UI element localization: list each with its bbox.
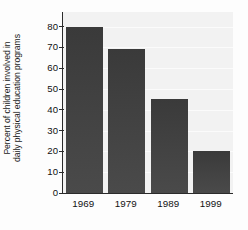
bar-1979: [108, 49, 145, 193]
bar-1999: [193, 151, 230, 193]
bar-1969: [66, 27, 103, 193]
y-axis-tick: 40: [34, 104, 64, 116]
bar-chart-figure: Percent of children involved in daily ph…: [0, 0, 248, 230]
plot-inner: [63, 12, 233, 193]
x-axis-tick-label: 1989: [147, 198, 190, 210]
x-axis-tick-label: 1969: [62, 198, 105, 210]
y-axis-tick-label: 20: [47, 145, 58, 157]
y-axis-tick: 80: [34, 21, 64, 33]
y-axis-tick: 20: [34, 145, 64, 157]
plot-area: [62, 12, 233, 194]
y-axis-tick-label: 80: [47, 21, 58, 33]
x-axis-tick-label: 1999: [190, 198, 233, 210]
y-axis-tick: 70: [34, 41, 64, 53]
y-axis-label: Percent of children involved in daily ph…: [2, 0, 36, 196]
y-axis-tick: 0: [34, 187, 64, 199]
y-axis-tick: 50: [34, 83, 64, 95]
y-axis-tick: 60: [34, 62, 64, 74]
x-axis-tick-label: 1979: [105, 198, 148, 210]
y-axis-label-container: Percent of children involved in daily ph…: [0, 0, 36, 200]
y-axis-tick: 30: [34, 125, 64, 137]
y-axis-tick-label: 70: [47, 41, 58, 53]
y-axis-tick-label: 30: [47, 125, 58, 137]
y-axis-tick-label: 40: [47, 104, 58, 116]
y-axis-tick-label: 50: [47, 83, 58, 95]
y-axis-tick-label: 60: [47, 62, 58, 74]
bar-1989: [151, 99, 188, 193]
y-axis-tick-label: 0: [53, 187, 58, 199]
y-axis-tick-label: 10: [47, 166, 58, 178]
y-axis-tick: 10: [34, 166, 64, 178]
